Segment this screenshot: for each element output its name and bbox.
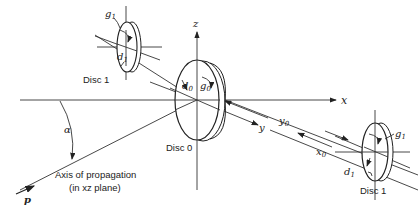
disc0-label: Disc 0	[166, 142, 192, 153]
propagation-label-line2: (in xz plane)	[69, 182, 121, 193]
alpha-label: α	[64, 124, 71, 135]
disc1-top-label: Disc 1	[83, 74, 109, 85]
propagation-label-line1: Axis of propagation	[55, 169, 136, 180]
p-vector-label: p	[24, 194, 31, 205]
z-axis-label: z	[192, 18, 199, 29]
x0-label: x0	[316, 146, 327, 159]
x0-line-a	[325, 131, 348, 140]
y0-label: y0	[278, 115, 290, 128]
y-axis-label: y	[258, 122, 265, 133]
disc-geometry-diagram: x z p α Axis of propagation (in xz plane…	[0, 0, 418, 208]
disc1-top: g1 d1	[95, 6, 162, 80]
disc0: d0 g0	[170, 60, 225, 141]
y-axis-extension	[270, 130, 418, 190]
d1-bottom-label: d1	[344, 166, 355, 179]
g1-top-label: g1	[105, 8, 116, 21]
disc1-bottom-label: Disc 1	[360, 185, 386, 196]
x-axis-label: x	[341, 94, 348, 107]
g1-bottom-label: g1	[395, 128, 406, 141]
y0-dimension	[225, 101, 268, 118]
